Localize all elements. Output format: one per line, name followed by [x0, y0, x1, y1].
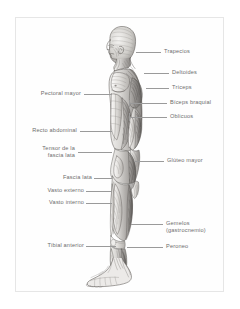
leader-vastoext: [86, 191, 112, 192]
label-recto-abdominal-text: Recto abdominal: [32, 127, 77, 133]
label-deltoides-text: Deltoides: [172, 69, 197, 75]
label-vasto-externo: Vasto externo: [0, 187, 84, 194]
label-gemelos-subtext: (gastrocnemio): [166, 227, 206, 234]
leader-tibial: [86, 246, 116, 247]
leader-fascialata: [94, 178, 112, 179]
label-gluteo-mayor-text: Glúteo mayor: [167, 157, 203, 163]
label-pectoral-mayor: Pectoral mayor: [0, 90, 81, 97]
label-tensor-fascia-lata-text: Tensor de la: [42, 145, 75, 151]
label-gemelos-text: Gemelos: [166, 220, 190, 226]
label-vasto-interno-text: Vasto interno: [49, 199, 84, 205]
leader-trapecios: [136, 52, 161, 53]
label-triceps-text: Tríceps: [172, 84, 192, 90]
label-pectoral-mayor-text: Pectoral mayor: [41, 90, 81, 96]
leader-peroneo: [127, 247, 163, 248]
leader-recto: [80, 131, 112, 132]
label-peroneo: Peroneo: [166, 243, 188, 250]
label-trapecios: Trapecios: [164, 48, 190, 55]
anatomy-plate: Trapecios Deltoides Tríceps Bíceps braqu…: [0, 0, 240, 309]
label-deltoides: Deltoides: [172, 69, 197, 76]
leader-oblicuos: [129, 117, 167, 118]
label-tensor-fascia-lata-subtext: fascia lata: [0, 152, 75, 159]
label-biceps-braquial-text: Bíceps braquial: [170, 99, 211, 105]
foot-detail: [84, 258, 170, 290]
male-anatomical-figure: [84, 24, 170, 282]
label-tibial-anterior: Tibial anterior: [0, 242, 84, 249]
label-vasto-externo-text: Vasto externo: [48, 187, 84, 193]
leader-triceps: [146, 88, 169, 89]
leader-oblicuos-tick: [129, 113, 130, 121]
label-tensor-fascia-lata: Tensor de la fascia lata: [0, 145, 75, 160]
label-recto-abdominal: Recto abdominal: [0, 127, 77, 134]
label-fascia-lata-text: Fascia lata: [63, 174, 92, 180]
label-oblicuos-text: Oblicuos: [170, 113, 193, 119]
leader-vastoint: [86, 203, 112, 204]
label-trapecios-text: Trapecios: [164, 48, 190, 54]
label-vasto-interno: Vasto interno: [0, 199, 84, 206]
label-gemelos: Gemelos (gastrocnemio): [166, 220, 206, 235]
label-triceps: Tríceps: [172, 84, 192, 91]
label-tibial-anterior-text: Tibial anterior: [48, 242, 84, 248]
leader-gemelos: [131, 224, 163, 225]
leader-pectoral: [84, 94, 112, 95]
leader-biceps: [129, 103, 167, 104]
leader-deltoides: [144, 73, 169, 74]
leader-biceps-tick: [129, 100, 130, 107]
label-peroneo-text: Peroneo: [166, 243, 188, 249]
label-gluteo-mayor: Glúteo mayor: [167, 157, 203, 164]
leader-gluteo: [134, 161, 164, 162]
label-oblicuos: Oblicuos: [170, 113, 193, 120]
label-fascia-lata: Fascia lata: [0, 174, 92, 181]
label-biceps-braquial: Bíceps braquial: [170, 99, 211, 106]
leader-tensor: [78, 152, 112, 153]
